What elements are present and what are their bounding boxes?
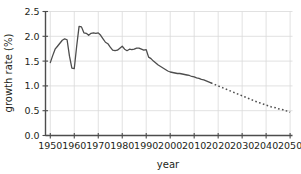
x-tick-label: 2040	[254, 140, 278, 151]
x-tick-label: 2050	[278, 140, 301, 151]
x-tick-label: 2030	[230, 140, 254, 151]
y-tick-label: 1.0	[24, 80, 39, 91]
y-tick-label: 2.5	[24, 6, 39, 17]
y-tick-label: 0.5	[24, 105, 39, 116]
y-tick-label: 2.0	[24, 31, 39, 42]
series-line-projection	[211, 83, 290, 112]
tick-marks	[43, 12, 291, 139]
x-tick-labels: 1950196019701980199020002010202020302040…	[38, 140, 301, 151]
x-axis-title: year	[157, 159, 180, 170]
x-tick-label: 2010	[182, 140, 206, 151]
x-tick-label: 1990	[134, 140, 158, 151]
y-tick-labels: 0.00.51.01.52.02.5	[24, 6, 39, 141]
chart-canvas: 1950196019701980199020002010202020302040…	[0, 0, 301, 174]
x-tick-label: 1980	[110, 140, 134, 151]
x-tick-label: 1950	[38, 140, 62, 151]
y-tick-label: 1.5	[24, 56, 39, 67]
growth-rate-chart: 1950196019701980199020002010202020302040…	[0, 0, 301, 174]
x-tick-label: 2020	[206, 140, 230, 151]
y-tick-label: 0.0	[24, 130, 39, 141]
x-tick-label: 1960	[62, 140, 86, 151]
y-axis-title: growth rate (%)	[3, 34, 14, 113]
x-tick-label: 2000	[158, 140, 182, 151]
x-tick-label: 1970	[86, 140, 110, 151]
